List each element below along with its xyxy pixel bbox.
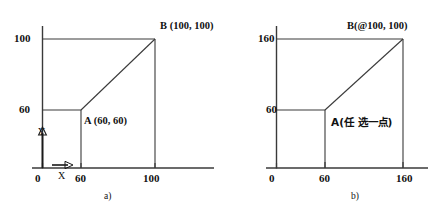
y-axis-label: Y (38, 127, 45, 137)
x-tick-label-60: 60 (75, 173, 86, 184)
figure-root: 100 60 0 60 100 B (100, 100) A (60, 60) … (0, 0, 428, 217)
point-b-label: B (100, 100) (160, 21, 213, 32)
x-tick-label-160: 160 (396, 173, 413, 184)
x-tick-label-0: 0 (269, 173, 275, 184)
x-axis-label: X (58, 171, 65, 181)
y-tick-label-60: 60 (19, 104, 30, 115)
point-b-label: B(@100, 100) (347, 21, 408, 32)
panel-b: 160 60 0 60 160 B(@100, 100) A(任 选一点) b) (214, 0, 428, 217)
x-tick-label-60: 60 (319, 173, 330, 184)
point-a-label: A (60, 60) (84, 116, 127, 127)
panel-b-drawing (214, 0, 428, 217)
panel-a-drawing (0, 0, 214, 217)
panel-b-caption: b) (351, 192, 359, 202)
y-tick-label-100: 100 (14, 33, 31, 44)
x-tick-label-100: 100 (143, 173, 160, 184)
x-tick-label-0: 0 (35, 173, 41, 184)
y-tick-label-60: 60 (266, 104, 277, 115)
y-tick-label-160: 160 (258, 33, 275, 44)
panel-a: 100 60 0 60 100 B (100, 100) A (60, 60) … (0, 0, 214, 217)
diagonal-a-to-b (81, 39, 155, 110)
diagonal-a-to-b (325, 39, 403, 110)
panel-a-caption: a) (104, 192, 111, 202)
point-a-label: A(任 选一点) (331, 117, 392, 128)
